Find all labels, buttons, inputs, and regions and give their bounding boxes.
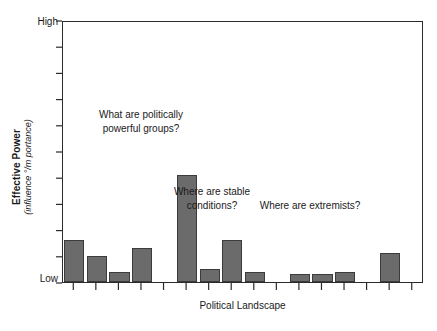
bar <box>87 256 107 282</box>
x-axis-title: Political Landscape <box>62 300 423 311</box>
bar <box>200 269 220 282</box>
y-axis-title-main: Effective Power <box>11 129 22 205</box>
bars-layer <box>63 22 422 282</box>
bar <box>64 240 84 282</box>
bar <box>245 272 265 282</box>
y-tick-label-low: Low <box>28 273 58 284</box>
bar <box>109 272 129 282</box>
bar <box>380 253 400 282</box>
annotation-extremists: Where are extremists? <box>240 199 380 213</box>
y-axis-title-sub: (influence °/m portance) <box>23 119 33 215</box>
y-tick-label-high: High <box>28 16 58 27</box>
bar <box>132 248 152 282</box>
chart-figure: Effective Power (influence °/m portance)… <box>0 0 437 331</box>
bar <box>312 274 332 282</box>
bar <box>335 272 355 282</box>
bar <box>222 240 242 282</box>
y-axis-title: Effective Power (influence °/m portance) <box>5 67 39 267</box>
bar <box>290 274 310 282</box>
annotation-powerful-groups: What are politically powerful groups? <box>76 108 206 135</box>
plot-area <box>62 21 423 283</box>
